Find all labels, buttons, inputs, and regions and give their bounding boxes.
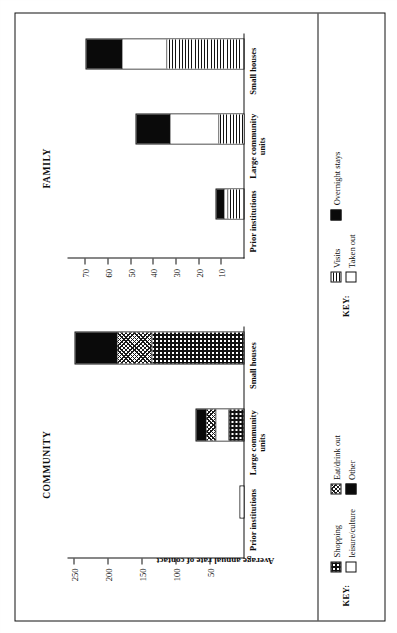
key-item-visits: Visits (330, 234, 341, 283)
bar-segment-taken-out (170, 114, 219, 144)
bar-segment-visits (228, 189, 243, 219)
y-tick-label-40: 40 (148, 269, 158, 278)
figure-page: COMMUNITY Average annual rate of contact… (0, 0, 397, 633)
y-tick-50: 50 (130, 259, 131, 265)
key-swatch-icon (345, 561, 356, 572)
bar-community-0 (239, 485, 244, 517)
y-tick-label-70: 70 (80, 269, 90, 278)
bar-family-1 (135, 113, 244, 145)
bar-community-1 (195, 408, 244, 440)
y-tick-30: 30 (175, 259, 176, 265)
key-item-overnight-stays: Overnight stays (330, 151, 341, 220)
y-tick-150: 150 (141, 558, 142, 564)
key-swatch-icon (330, 561, 341, 572)
x-category-label-2: Small houses (248, 33, 257, 108)
y-tick-40: 40 (152, 259, 153, 265)
y-tick-70: 70 (84, 259, 85, 265)
key-swatch-icon (345, 483, 356, 494)
key-column: VisitsTaken out (328, 234, 358, 283)
bar-segment-shopping (152, 332, 243, 362)
y-tick-label-100: 100 (171, 568, 181, 581)
y-tick-label-30: 30 (171, 269, 181, 278)
y-tick-label-250: 250 (69, 568, 79, 581)
key-item-label: Shopping (331, 524, 341, 557)
key-community: KEY: Shoppingleisure/cultureEat/drink ou… (322, 327, 378, 606)
key-swatch-icon (330, 209, 341, 220)
bar-segment-leisure-culture (240, 486, 243, 516)
key-item-label: leisure/culture (346, 508, 356, 557)
bar-segment-shopping (229, 409, 243, 439)
key-item-list-community: Shoppingleisure/cultureEat/drink outOthe… (328, 327, 358, 572)
y-tick-10: 10 (220, 259, 221, 265)
bar-segment-eat-drink-out (117, 332, 152, 362)
bar-segment-overnight-stays (86, 39, 122, 69)
key-item-eat-drink-out: Eat/drink out (330, 435, 341, 495)
panel-family: FAMILY 10203040506070 Prior institutions… (21, 19, 314, 316)
rotated-figure-canvas: COMMUNITY Average annual rate of contact… (0, 0, 397, 633)
key-swatch-icon (330, 272, 341, 283)
key-label-family: KEY: (340, 294, 350, 316)
bar-segment-eat-drink-out (206, 409, 215, 439)
figure-outer-border: COMMUNITY Average annual rate of contact… (14, 12, 385, 621)
key-item-label: Taken out (346, 234, 356, 268)
y-tick-250: 250 (73, 558, 74, 564)
key-item-shopping: Shopping (330, 508, 341, 572)
key-swatch-icon (345, 272, 356, 283)
y-tick-label-50: 50 (205, 568, 215, 577)
key-family: KEY: VisitsTaken outOvernight stays (322, 37, 378, 316)
bar-segment-other (196, 409, 206, 439)
key-item-label: Overnight stays (331, 151, 341, 205)
x-category-label-2: Small houses (248, 327, 257, 404)
bar-series-family (67, 33, 244, 258)
x-category-label-1: Large community units (248, 404, 266, 481)
y-tick-label-60: 60 (103, 269, 113, 278)
y-tick-100: 100 (175, 558, 176, 564)
x-category-label-0: Prior institutions (248, 481, 257, 558)
bar-segment-overnight-stays (136, 114, 169, 144)
bar-community-2 (74, 331, 244, 363)
key-column: Eat/drink outOther (328, 435, 358, 495)
bar-family-2 (85, 38, 244, 70)
y-tick-label-20: 20 (194, 269, 204, 278)
key-swatch-icon (330, 483, 341, 494)
y-tick-60: 60 (107, 259, 108, 265)
bar-segment-visits (167, 39, 243, 69)
key-column: Shoppingleisure/culture (328, 508, 358, 572)
key-divider-rule (317, 13, 318, 620)
key-label-community: KEY: (340, 584, 350, 606)
key-item-list-family: VisitsTaken outOvernight stays (328, 37, 358, 282)
y-tick-20: 20 (198, 259, 199, 265)
key-item-taken-out: Taken out (345, 234, 356, 283)
bar-segment-taken-out (122, 39, 167, 69)
y-tick-label-50: 50 (126, 269, 136, 278)
y-tick-50: 50 (209, 558, 210, 564)
bar-segment-visits (219, 114, 244, 144)
panel-community: COMMUNITY Average annual rate of contact… (21, 313, 314, 617)
key-item-label: Visits (331, 248, 341, 267)
plot-area-family: 10203040506070 Prior institutionsLarge c… (67, 33, 244, 258)
x-category-label-0: Prior institutions (248, 183, 257, 258)
bar-segment-other (75, 332, 117, 362)
bar-series-community (67, 327, 244, 559)
bar-segment-leisure-culture (216, 409, 229, 439)
bar-family-0 (215, 188, 245, 220)
key-column: Overnight stays (328, 151, 358, 220)
key-item-label: Eat/drink out (331, 435, 341, 480)
key-item-leisure-culture: leisure/culture (345, 508, 356, 572)
y-tick-label-150: 150 (137, 568, 147, 581)
bar-segment-taken-out (224, 189, 228, 219)
y-tick-label-200: 200 (103, 568, 113, 581)
key-item-label: Other (346, 460, 356, 479)
x-category-label-1: Large community units (248, 108, 266, 183)
panel-title-community: COMMUNITY (41, 313, 51, 617)
bar-segment-overnight-stays (216, 189, 224, 219)
panel-title-family: FAMILY (41, 19, 51, 316)
plot-area-community: Average annual rate of contact 501001502… (67, 327, 244, 559)
key-item-other: Other (345, 435, 356, 495)
y-tick-200: 200 (107, 558, 108, 564)
y-tick-label-10: 10 (216, 269, 226, 278)
